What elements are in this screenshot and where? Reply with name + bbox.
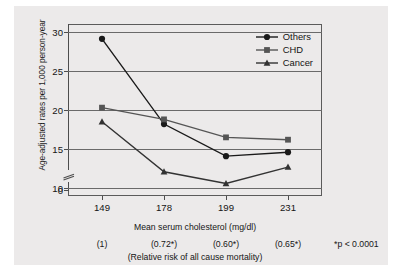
circle-marker xyxy=(99,36,105,42)
relative-risk-value: (1) xyxy=(97,239,108,249)
relative-risk-value: (0.72*) xyxy=(151,239,177,249)
relative-risk-caption: (Relative risk of all cause mortality) xyxy=(68,252,322,262)
x-axis-title: Mean serum cholesterol (mg/dl) xyxy=(68,222,322,232)
chart-figure: Age-adjusted rates per 1,000 person-year… xyxy=(14,6,388,265)
x-tick-mark xyxy=(226,196,227,200)
series-line xyxy=(102,108,288,140)
circle-marker xyxy=(223,153,229,159)
relative-risk-row: (1)(0.72*)(0.60*)(0.65*) xyxy=(14,239,388,251)
x-tick-mark xyxy=(164,196,165,200)
triangle-marker xyxy=(285,163,292,169)
series-chd xyxy=(99,105,291,143)
x-tick-mark xyxy=(288,196,289,200)
circle-marker xyxy=(264,33,270,39)
legend-marker-circle xyxy=(255,32,279,42)
x-tick-mark xyxy=(102,196,103,200)
y-tick-label: 15 xyxy=(52,144,63,155)
axis-break-icon xyxy=(63,170,75,182)
y-tick-label: 20 xyxy=(52,105,63,116)
square-marker xyxy=(161,116,167,122)
series-line xyxy=(102,122,288,184)
circle-marker xyxy=(285,149,291,155)
square-marker xyxy=(264,47,270,53)
legend-label: CHD xyxy=(283,44,303,55)
legend-item-chd[interactable]: CHD xyxy=(255,44,313,55)
square-marker xyxy=(99,105,105,111)
y-axis-title: Age-adjusted rates per 1,000 person-year xyxy=(37,5,47,185)
legend-marker-triangle xyxy=(255,58,279,68)
legend-item-cancer[interactable]: Cancer xyxy=(255,57,313,68)
relative-risk-value: (0.65*) xyxy=(275,239,301,249)
legend-label: Others xyxy=(283,31,311,42)
x-tick-label: 178 xyxy=(156,202,172,213)
x-tick-label: 231 xyxy=(280,202,296,213)
square-marker xyxy=(223,134,229,140)
chart-legend: OthersCHDCancer xyxy=(252,28,318,71)
square-marker xyxy=(285,137,291,143)
plot-area: 01015202530 149178199231 OthersCHDCancer xyxy=(68,24,322,196)
legend-item-others[interactable]: Others xyxy=(255,31,313,42)
triangle-marker xyxy=(99,118,106,124)
p-value-note: *p < 0.0001 xyxy=(334,239,379,249)
legend-marker-square xyxy=(255,45,279,55)
y-tick-label: 10 xyxy=(52,183,63,194)
relative-risk-value: (0.60*) xyxy=(213,239,239,249)
x-tick-label: 199 xyxy=(218,202,234,213)
legend-label: Cancer xyxy=(283,57,313,68)
y-tick-label: 30 xyxy=(52,26,63,37)
y-tick-label: 25 xyxy=(52,65,63,76)
x-tick-label: 149 xyxy=(94,202,110,213)
